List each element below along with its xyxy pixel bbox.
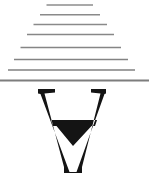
background-rect	[0, 0, 149, 193]
figure-canvas	[0, 0, 149, 193]
figure-svg	[0, 0, 149, 193]
